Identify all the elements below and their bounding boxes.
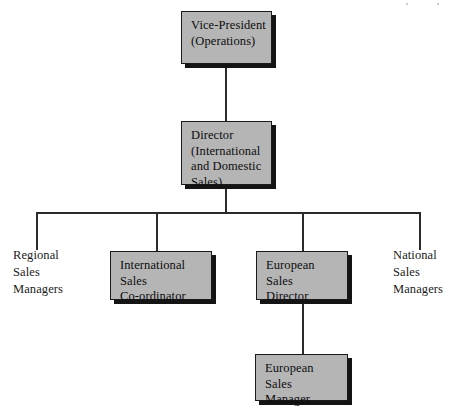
node-national-sales-managers: National Sales Managers <box>393 247 456 298</box>
node-national-sales-managers-label: National Sales Managers <box>393 247 456 298</box>
connector-european-director-to-manager <box>302 300 304 354</box>
node-european-sales-director[interactable]: European Sales Director <box>256 251 348 300</box>
connector-vp-to-director <box>225 64 227 121</box>
connector-horizontal-bus <box>36 212 421 214</box>
node-regional-sales-managers: Regional Sales Managers <box>13 247 98 298</box>
node-international-sales-coordinator[interactable]: International Sales Co-ordinator <box>110 251 212 300</box>
node-european-sales-director-label: European Sales Director <box>266 258 347 305</box>
node-european-sales-manager[interactable]: European Sales Manager <box>255 354 348 401</box>
connector-bus-to-regional-sales-managers <box>36 212 38 250</box>
node-vice-president-label: Vice-President (Operations) <box>191 18 271 49</box>
connector-bus-to-european-sales-director <box>302 212 304 251</box>
org-chart: Vice-President (Operations) Director (In… <box>0 0 456 411</box>
node-european-sales-manager-label: European Sales Manager <box>265 361 347 408</box>
node-regional-sales-managers-label: Regional Sales Managers <box>13 247 98 298</box>
node-director-label: Director (International and Domestic Sal… <box>191 128 271 190</box>
connector-bus-to-international-sales-coordinator <box>156 212 158 251</box>
node-international-sales-coordinator-label: International Sales Co-ordinator <box>120 258 211 305</box>
node-vice-president[interactable]: Vice-President (Operations) <box>181 11 272 64</box>
node-director[interactable]: Director (International and Domestic Sal… <box>181 121 272 185</box>
connector-bus-to-national-sales-managers <box>419 212 421 250</box>
scan-speck <box>406 3 408 5</box>
scan-speck <box>437 3 439 5</box>
